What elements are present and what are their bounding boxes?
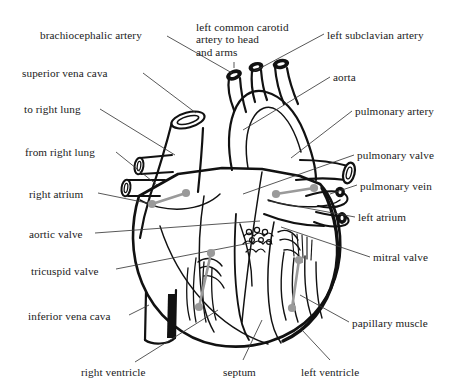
label-left-subclavian-artery: left subclavian artery (327, 29, 424, 41)
label-left-atrium: left atrium (358, 211, 406, 223)
label-septum: septum (223, 366, 256, 378)
left-ventricle-marker-end-dot (288, 304, 296, 312)
left-atrium-marker-start-dot (272, 190, 280, 198)
label-from-right-lung: from right lung (25, 146, 95, 158)
inferior-vena-cava-base (145, 338, 175, 344)
label-tricuspid-valve: tricuspid valve (31, 265, 99, 277)
label-pulmonary-artery: pulmonary artery (355, 105, 434, 117)
right-atrium-marker-start-dot (148, 200, 156, 208)
right-ventricle-marker-start-dot (207, 249, 215, 257)
right-ventricle-marker-end-dot (195, 303, 203, 311)
label-pulmonary-valve: pulmonary valve (357, 149, 434, 161)
inferior-vena-cava-shading (167, 294, 176, 338)
label-to-right-lung: to right lung (24, 103, 81, 115)
leader-aorta (243, 77, 330, 130)
leader-superior-vena-cava (143, 73, 196, 113)
aorta-arch-inner (246, 107, 301, 168)
label-superior-vena-cava: superior vena cava (22, 67, 108, 79)
label-mitral-valve: mitral valve (373, 251, 428, 263)
label-aorta: aorta (333, 71, 356, 83)
left-common-carotid-vessel (252, 70, 267, 102)
label-right-ventricle: right ventricle (81, 366, 146, 378)
label-left-ventricle: left ventricle (301, 366, 359, 378)
pulmonary-vein-lower-lumen (341, 216, 344, 220)
label-aortic-valve: aortic valve (29, 228, 83, 240)
label-left-common-carotid: left common carotid artery to head and a… (196, 21, 289, 58)
heart-diagram-figure: brachiocephalic arteryleft common caroti… (0, 0, 470, 392)
leader-to-right-lung (100, 109, 175, 155)
right-atrium-marker-end-dot (182, 189, 190, 197)
label-right-atrium: right atrium (29, 188, 83, 200)
label-pulmonary-vein: pulmonary vein (360, 180, 432, 192)
left-atrium-marker-end-dot (310, 184, 318, 192)
leader-pulmonary-artery (291, 111, 352, 158)
label-papillary-muscle: papillary muscle (352, 317, 428, 329)
left-ventricle-marker-start-dot (295, 256, 303, 264)
label-inferior-vena-cava: inferior vena cava (28, 310, 111, 322)
leader-left-ventricle (302, 330, 330, 360)
to-right-lung-vessel (140, 155, 173, 174)
aorta-arch (229, 91, 316, 180)
label-brachiocephalic-artery: brachiocephalic artery (40, 29, 142, 41)
